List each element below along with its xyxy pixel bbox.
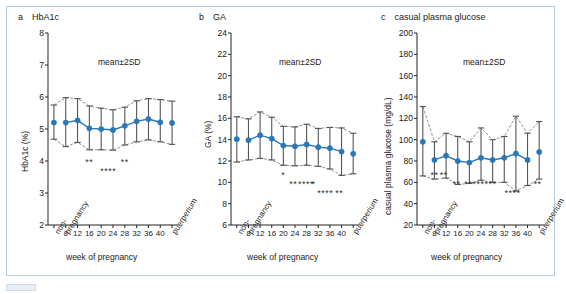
significance-marker: ** [121,157,129,167]
panel-hba1c: a HbA1cmean±2SDHbA1c (%)week of pregnanc… [6,0,191,270]
data-point-marker[interactable] [502,155,507,160]
significance-marker: ** [430,170,438,180]
significance-marker: * [281,170,285,180]
panel-ga: b GAmean±2SDGA (%)week of pregnancy68101… [191,0,371,270]
data-point-marker[interactable] [339,149,344,154]
data-point-marker[interactable] [443,153,448,158]
significance-marker: **** [504,188,520,198]
data-point-marker[interactable] [304,142,309,147]
data-point-marker[interactable] [467,160,472,165]
data-point-marker[interactable] [51,120,56,125]
significance-marker: * [312,179,316,189]
significance-marker: ** [289,179,297,189]
data-point-marker[interactable] [432,157,437,162]
significance-marker: ** [85,157,93,167]
data-point-marker[interactable] [525,157,530,162]
data-point-marker[interactable] [110,127,115,132]
significance-marker: **** [317,188,333,198]
data-point-marker[interactable] [351,151,356,156]
data-point-marker[interactable] [122,123,127,128]
data-point-marker[interactable] [246,138,251,143]
data-point-marker[interactable] [63,120,68,125]
data-point-marker[interactable] [158,120,163,125]
data-point-marker[interactable] [420,139,425,144]
data-point-marker[interactable] [316,145,321,150]
significance-marker: ** [335,188,343,198]
data-point-marker[interactable] [87,126,92,131]
significance-marker: ** [440,170,448,180]
data-point-marker[interactable] [169,120,174,125]
significance-marker: ** [533,179,541,189]
significance-marker: ** [453,179,461,189]
plot-area-b [191,0,381,270]
data-point-marker[interactable] [327,146,332,151]
data-point-marker[interactable] [75,118,80,123]
data-point-marker[interactable] [146,116,151,121]
data-point-marker[interactable] [281,143,286,148]
panel-casual-plasma-glucose: c casual plasma glucosemean±2SDcasual pl… [371,0,555,270]
data-point-marker[interactable] [257,133,262,138]
figure-footer-strip [6,284,36,291]
data-point-marker[interactable] [99,126,104,131]
upper-2sd-envelope [54,98,172,110]
significance-marker: **** [100,166,116,176]
data-point-marker[interactable] [234,137,239,142]
data-point-marker[interactable] [478,155,483,160]
data-point-marker[interactable] [269,136,274,141]
plot-area-a [6,0,196,270]
plot-area-c [371,0,561,270]
data-point-marker[interactable] [513,151,518,156]
significance-marker: ** [464,179,472,189]
data-point-marker[interactable] [490,157,495,162]
significance-marker: ****** [472,179,496,189]
data-point-marker[interactable] [134,119,139,124]
data-point-marker[interactable] [455,158,460,163]
data-point-marker[interactable] [537,149,542,154]
data-point-marker[interactable] [292,144,297,149]
